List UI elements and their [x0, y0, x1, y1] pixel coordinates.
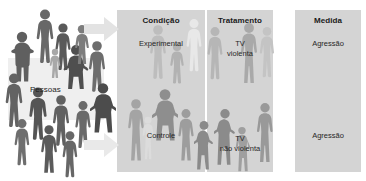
people-group-label: Pessoas: [30, 85, 61, 94]
person-silhouette: [60, 130, 80, 178]
cell-label-experimental: Experimental: [117, 39, 205, 49]
cell-label-tv-nao-violenta: TV não violenta: [202, 134, 278, 154]
cell-label-tv-violenta-line1: TV: [207, 39, 273, 49]
column-title-condicao: Condição: [117, 16, 205, 25]
cell-label-tv-violenta-line2: violenta: [207, 49, 273, 59]
arrow-to-controle-icon: [84, 132, 120, 162]
person-silhouette: [12, 118, 32, 166]
cell-label-agressao-bottom: Agressão: [295, 131, 361, 141]
cell-label-controle: Controle: [123, 131, 199, 141]
experiment-design-diagram: Condição Tratamento Medida Experimental …: [0, 0, 366, 181]
cell-label-tv-violenta: TV violenta: [207, 39, 273, 59]
person-silhouette: [38, 124, 60, 174]
person-silhouette: [90, 82, 116, 136]
column-title-tratamento: Tratamento: [207, 16, 273, 25]
column-title-medida: Medida: [295, 16, 361, 25]
cell-label-tv-nao-violenta-line1: TV: [202, 134, 278, 144]
person-silhouette: [48, 48, 62, 78]
arrow-to-experimental-icon: [84, 16, 120, 46]
person-silhouette: [148, 24, 168, 82]
cell-label-agressao-top: Agressão: [295, 39, 361, 49]
cell-label-tv-nao-violenta-line2: não violenta: [202, 144, 278, 154]
column-panel-medida: [295, 10, 361, 172]
